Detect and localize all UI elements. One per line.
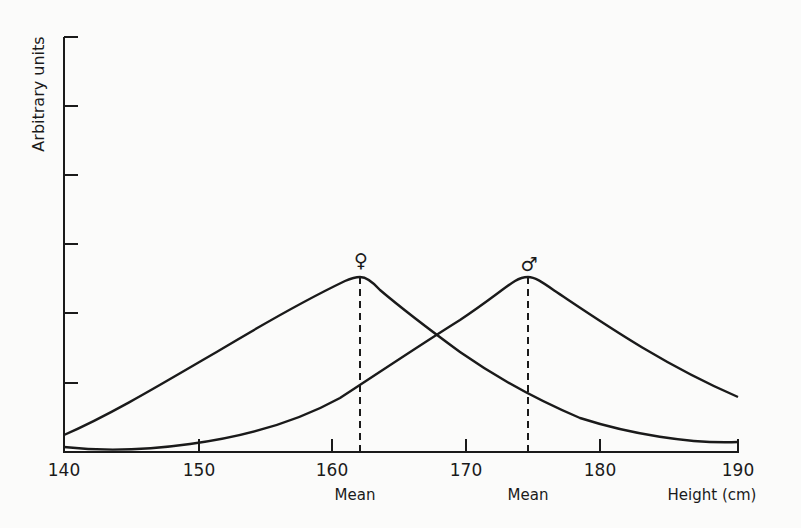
x-tick-160: 160 <box>316 460 348 480</box>
x-tick-170: 170 <box>450 460 482 480</box>
female-distribution-curve <box>64 277 738 442</box>
x-axis-ticks <box>199 439 738 452</box>
y-axis-label: Arbitrary units <box>29 36 48 151</box>
x-tick-labels: 140 150 160 170 180 190 <box>48 460 754 480</box>
x-tick-180: 180 <box>584 460 616 480</box>
x-axis-label: Height (cm) <box>668 486 757 504</box>
x-tick-190: 190 <box>722 460 754 480</box>
male-symbol-icon: ♂ <box>520 253 537 275</box>
male-distribution-curve <box>64 277 738 450</box>
x-tick-140: 140 <box>48 460 80 480</box>
female-mean-label: Mean <box>335 486 376 504</box>
male-mean-label: Mean <box>508 486 549 504</box>
x-tick-150: 150 <box>183 460 215 480</box>
height-distribution-chart: 140 150 160 170 180 190 Arbitrary units … <box>0 0 801 528</box>
y-axis-ticks <box>64 37 78 383</box>
female-symbol-icon: ♀ <box>354 249 368 271</box>
